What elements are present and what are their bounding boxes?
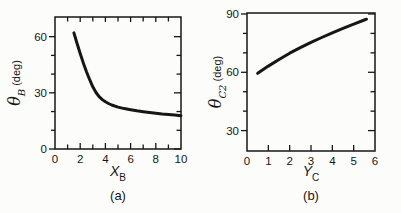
y-variable-subscript: C bbox=[312, 172, 319, 183]
x-tick-label: 1 bbox=[265, 155, 271, 167]
x-tick-label: 0 bbox=[52, 153, 58, 165]
y-tick-label: 60 bbox=[34, 31, 47, 43]
y-tick-label: 60 bbox=[226, 66, 239, 78]
x-tick-label: 10 bbox=[175, 153, 188, 165]
x-variable-subscript: B bbox=[119, 172, 126, 183]
x-variable: X bbox=[110, 163, 119, 179]
x-tick-label: 2 bbox=[286, 155, 292, 167]
deg-unit: (deg) bbox=[10, 60, 22, 86]
axes-frame bbox=[247, 13, 375, 151]
plot-b-x-axis-label: YC bbox=[303, 163, 320, 182]
x-tick-label: 0 bbox=[244, 155, 250, 167]
y-tick-label: 30 bbox=[34, 87, 47, 99]
y-tick-label: 30 bbox=[226, 125, 239, 137]
theta-subscript: C2 bbox=[217, 85, 228, 99]
y-tick-label: 90 bbox=[226, 8, 239, 20]
plot-a-x-axis-label: XB bbox=[110, 163, 126, 182]
deg-unit: (deg) bbox=[211, 56, 223, 82]
plot-b-y-axis-label: θC2(deg) bbox=[208, 56, 227, 108]
x-tick-label: 4 bbox=[102, 153, 109, 165]
x-tick-label: 8 bbox=[153, 153, 159, 165]
plot-b-caption: (b) bbox=[303, 188, 319, 203]
x-tick-label: 4 bbox=[329, 155, 336, 167]
y-variable: Y bbox=[303, 163, 312, 179]
x-tick-label: 2 bbox=[77, 153, 83, 165]
theta-symbol: θ bbox=[206, 99, 225, 109]
data-curve bbox=[74, 33, 181, 116]
y-tick-label: 0 bbox=[41, 143, 47, 155]
x-tick-label: 6 bbox=[372, 155, 378, 167]
plot-a-caption: (a) bbox=[110, 188, 126, 203]
dual-angle-plots-figure: 0246810030600123456306090 θB(deg) XB (a)… bbox=[0, 0, 401, 213]
data-curve bbox=[258, 19, 367, 73]
x-tick-label: 5 bbox=[350, 155, 356, 167]
theta-symbol: θ bbox=[5, 96, 24, 106]
plot-a-y-axis-label: θB(deg) bbox=[7, 60, 26, 106]
theta-subscript: B bbox=[16, 89, 27, 96]
plots-canvas: 0246810030600123456306090 bbox=[0, 0, 401, 213]
x-tick-label: 6 bbox=[127, 153, 133, 165]
